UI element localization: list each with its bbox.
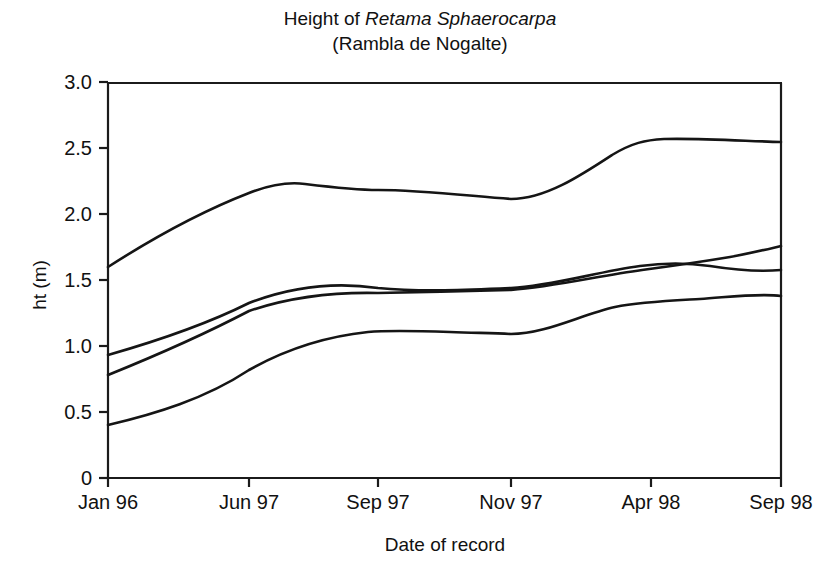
chart-figure: Height of Retama Sphaerocarpa (Rambla de… <box>0 0 840 577</box>
axis-frame <box>108 82 782 478</box>
series-line-plant-1 <box>108 139 781 267</box>
x-tick-label-jan-96: Jan 96 <box>78 491 138 513</box>
x-tick-label-sep-98: Sep 98 <box>749 491 812 513</box>
y-tick-label-0-5: 0.5 <box>64 401 92 423</box>
series-line-plant-3 <box>108 246 781 375</box>
y-tick-label-1-5: 1.5 <box>64 269 92 291</box>
series-line-plant-2 <box>108 263 781 355</box>
y-tick-label-0: 0 <box>81 467 92 489</box>
x-axis-tick-labels: Jan 96 Jun 97 Sep 97 Nov 97 Apr 98 Sep 9… <box>78 491 813 513</box>
y-axis-title: ht (m) <box>29 260 50 310</box>
x-axis-title: Date of record <box>385 534 505 555</box>
y-tick-label-2-0: 2.0 <box>64 203 92 225</box>
x-tick-label-nov-97: Nov 97 <box>479 491 542 513</box>
data-series-group <box>108 139 781 425</box>
y-tick-label-2-5: 2.5 <box>64 137 92 159</box>
x-tick-label-apr-98: Apr 98 <box>622 491 681 513</box>
x-tick-label-jun-97: Jun 97 <box>219 491 279 513</box>
x-tick-label-sep-97: Sep 97 <box>346 491 409 513</box>
y-axis-tick-labels: 3.0 2.5 2.0 1.5 1.0 0.5 0 <box>64 71 92 489</box>
series-line-plant-4 <box>108 295 781 425</box>
y-axis-ticks <box>99 82 108 478</box>
y-tick-label-3-0: 3.0 <box>64 71 92 93</box>
x-axis-ticks <box>108 478 781 487</box>
y-tick-label-1-0: 1.0 <box>64 335 92 357</box>
chart-canvas: 3.0 2.5 2.0 1.5 1.0 0.5 0 Jan 96 Jun 97 … <box>0 0 840 577</box>
